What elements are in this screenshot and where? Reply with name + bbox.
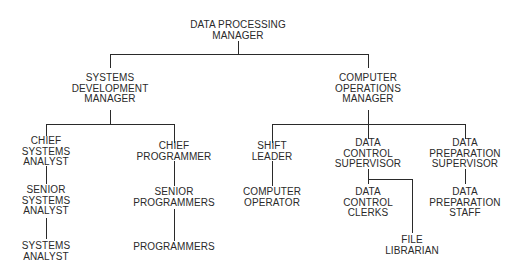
node-label-line: DATA (335, 138, 401, 149)
org-chart: DATA PROCESSING MANAGER SYSTEMS DEVELOPM… (0, 0, 520, 276)
node-label-line: PROGRAMMERS (133, 242, 215, 253)
node-data-preparation-staff: DATA PREPARATION STAFF (429, 187, 500, 219)
node-label-line: CLERKS (343, 208, 393, 219)
node-label-line: SUPERVISOR (429, 159, 500, 170)
node-systems-analyst: SYSTEMS ANALYST (22, 241, 71, 262)
node-data-control-supervisor: DATA CONTROL SUPERVISOR (335, 138, 401, 170)
node-label-line: PROGRAMMERS (133, 198, 215, 209)
node-label-line: ANALYST (22, 157, 71, 168)
node-label-line: ANALYST (22, 252, 71, 263)
node-systems-development-manager: SYSTEMS DEVELOPMENT MANAGER (72, 73, 149, 105)
node-chief-systems-analyst: CHIEF SYSTEMS ANALYST (22, 136, 71, 168)
node-label-line: DATA (429, 138, 500, 149)
node-label-line: MANAGER (72, 94, 149, 105)
node-label-line: SHIFT (252, 141, 293, 152)
node-senior-programmers: SENIOR PROGRAMMERS (133, 187, 215, 208)
node-label-line: SENIOR (133, 187, 215, 198)
node-chief-programmer: CHIEF PROGRAMMER (137, 141, 212, 162)
node-label-line: MANAGER (335, 94, 401, 105)
node-label-line: PROGRAMMER (137, 152, 212, 163)
node-label-line: STAFF (429, 208, 500, 219)
node-label-line: CHIEF (137, 141, 212, 152)
node-label-line: LIBRARIAN (385, 246, 439, 257)
node-label-line: CHIEF (22, 136, 71, 147)
node-computer-operator: COMPUTER OPERATOR (243, 187, 301, 208)
node-label-line: SUPERVISOR (335, 159, 401, 170)
node-data-control-clerks: DATA CONTROL CLERKS (343, 187, 393, 219)
node-label-line: LEADER (252, 152, 293, 163)
node-label-line: ANALYST (22, 206, 71, 217)
node-label-line: SYSTEMS (72, 73, 149, 84)
node-label-line: DATA (429, 187, 500, 198)
node-senior-systems-analyst: SENIOR SYSTEMS ANALYST (22, 185, 71, 217)
node-label-line: COMPUTER (243, 187, 301, 198)
node-label-line: MANAGER (190, 31, 286, 42)
node-computer-operations-manager: COMPUTER OPERATIONS MANAGER (335, 73, 401, 105)
node-data-preparation-supervisor: DATA PREPARATION SUPERVISOR (429, 138, 500, 170)
node-programmers: PROGRAMMERS (133, 242, 215, 253)
node-label-line: FILE (385, 235, 439, 246)
node-label-line: COMPUTER (335, 73, 401, 84)
node-data-processing-manager: DATA PROCESSING MANAGER (190, 20, 286, 41)
node-label-line: SENIOR (22, 185, 71, 196)
node-file-librarian: FILE LIBRARIAN (385, 235, 439, 256)
node-label-line: DATA (343, 187, 393, 198)
node-label-line: OPERATOR (243, 198, 301, 209)
node-shift-leader: SHIFT LEADER (252, 141, 293, 162)
node-label-line: SYSTEMS (22, 241, 71, 252)
node-label-line: DATA PROCESSING (190, 20, 286, 31)
